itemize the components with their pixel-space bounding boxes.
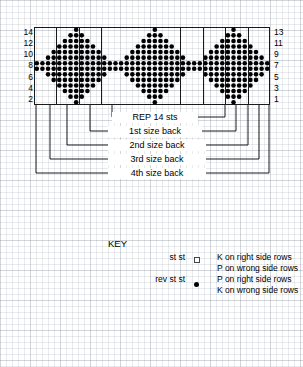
stitch-dot [164,61,169,66]
stitch-dot [248,66,253,71]
stitch-dot [226,39,231,44]
stitch-dot [254,72,259,77]
stitch-dot [226,55,231,60]
stitch-dot [242,72,247,77]
stitch-dot [153,27,158,32]
stitch-dot [209,72,214,77]
row-number: 11 [274,39,296,48]
chart-section-divider [203,27,204,105]
stitch-dot [209,55,214,60]
stitch-dot [237,50,242,55]
stitch-dot [220,78,225,83]
stitch-grid [34,27,270,105]
bracket-label-4th-size-back: 4th size back [108,168,206,179]
stitch-dot [57,50,62,55]
stitch-dot [158,44,163,49]
stitch-dot [153,50,158,55]
row-number: 13 [274,28,296,37]
stitch-dot [68,55,73,60]
stitch-dot [79,72,84,77]
stitch-dot [220,50,225,55]
stitch-dot [63,89,68,94]
stitch-dot [164,44,169,49]
key-legend: KEY st st K on right side rows P on wron… [99,238,299,249]
stitch-dot [231,83,236,88]
stitch-dot [242,83,247,88]
stitch-dot [214,44,219,49]
stitch-dot [192,66,197,71]
stitch-dot [209,61,214,66]
stitch-dot [147,55,152,60]
stitch-dot [63,39,68,44]
stitch-dot [231,33,236,38]
stitch-dot [175,50,180,55]
stitch-dot [124,66,129,71]
stitch-dot [74,55,79,60]
stitch-dot [226,89,231,94]
stitch-dot [46,66,51,71]
stitch-dot [79,89,84,94]
stitch-dot [91,83,96,88]
stitch-dot [141,66,146,71]
stitch-dot [214,72,219,77]
stitch-dot [57,78,62,83]
stitch-dot [51,72,56,77]
stitch-dot [158,89,163,94]
stitch-dot [74,100,79,105]
stitch-dot [220,55,225,60]
stitch-dot [214,78,219,83]
stitch-dot [158,94,163,99]
stitch-dot [158,72,163,77]
stitch-dot [40,61,45,66]
stitch-dot [153,89,158,94]
stitch-dot [74,44,79,49]
stitch-dot [175,55,180,60]
stitch-dot [51,66,56,71]
stitch-dot [91,55,96,60]
chart-section-divider [79,27,80,105]
stitch-dot [141,89,146,94]
stitch-dot [242,39,247,44]
stitch-dot [74,83,79,88]
stitch-dot [85,89,90,94]
stitch-dot [147,50,152,55]
stitch-dot [124,55,129,60]
stitch-dot [74,61,79,66]
stitch-dot [237,72,242,77]
stitch-dot [40,66,45,71]
stitch-dot [147,33,152,38]
stitch-dot [79,55,84,60]
stitch-dot [102,55,107,60]
stitch-dot [231,100,236,105]
stitch-dot [136,66,141,71]
stitch-dot [74,66,79,71]
stitch-dot [169,61,174,66]
stitch-dot [147,66,152,71]
stitch-dot [169,66,174,71]
stitch-dot [164,72,169,77]
stitch-dot [186,61,191,66]
stitch-dot [242,89,247,94]
row-number: 1 [274,95,296,104]
stitch-dot [220,83,225,88]
stitch-dot [169,72,174,77]
stitch-dot [197,61,202,66]
stitch-dot [136,78,141,83]
stitch-dot [164,50,169,55]
stitch-dot [79,78,84,83]
stitch-dot [242,66,247,71]
stitch-dot [85,39,90,44]
row-number: 8 [11,61,33,70]
key-desc-line-2: K on wrong side rows [217,285,303,296]
chart-section-divider [180,27,181,105]
stitch-dot [226,94,231,99]
bracket-label-1st-size-back: 1st size back [108,126,202,137]
stitch-dot [96,55,101,60]
stitch-dot [46,72,51,77]
stitch-dot [254,61,259,66]
stitch-dot [158,50,163,55]
stitch-dot [169,83,174,88]
stitch-dot [74,89,79,94]
stitch-dot [141,39,146,44]
stitch-dot [254,78,259,83]
